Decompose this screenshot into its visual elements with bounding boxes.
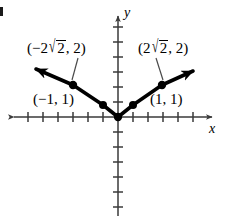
figure-canvas: (−2√2, 2) (2√2, 2) (−1, 1) (1, 1) y x (0, 0, 237, 219)
y-axis-label: y (124, 6, 130, 20)
leader-line-left (72, 58, 78, 80)
radical-sign-left: √ (49, 38, 55, 56)
point-label-minus-one-one: (−1, 1) (33, 92, 74, 107)
point-dot-one-one (129, 101, 137, 109)
point-label-two-root-two: (2√2, 2) (138, 40, 188, 56)
radical-right: √2 (151, 40, 169, 56)
point-dot-two-root-two (158, 81, 166, 89)
point-dot-minus-one-one (99, 101, 107, 109)
point-label-one-one: (1, 1) (150, 92, 183, 107)
radicand-right: 2 (159, 40, 169, 56)
coefficient-left: −2 (32, 40, 48, 56)
x-axis-label: x (209, 122, 215, 136)
radical-sign-right: √ (152, 38, 158, 56)
comma-right: , (168, 40, 176, 56)
y-value-left: 2 (73, 40, 81, 56)
point-label-minus-two-root-two: (−2√2, 2) (27, 40, 86, 56)
leader-line-right (156, 58, 163, 80)
radical-left: √2 (48, 40, 66, 56)
coordinate-plot (0, 0, 237, 219)
radicand-left: 2 (56, 40, 66, 56)
point-dot-vertex (114, 113, 122, 121)
point-dot-minus-two-root-two (69, 81, 77, 89)
coefficient-right: 2 (143, 40, 151, 56)
paren-close-left: ) (81, 40, 86, 56)
paren-close-right: ) (183, 40, 188, 56)
